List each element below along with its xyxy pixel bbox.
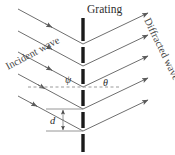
- diffraction-grating-figure: Grating Incident wave Diffracted wave ψ …: [0, 0, 175, 155]
- incident-ray: [18, 74, 83, 109]
- incident-arrowhead: [30, 103, 37, 107]
- incident-arrowhead: [45, 24, 52, 28]
- grating-spacing-label: d: [50, 115, 56, 126]
- incident-angle-label: ψ: [65, 74, 72, 85]
- diagram-canvas: Grating Incident wave Diffracted wave ψ …: [0, 0, 175, 155]
- incident-wave-label: Incident wave: [4, 34, 62, 72]
- grating-label: Grating: [87, 3, 122, 16]
- diffracted-rays-group: [83, 13, 148, 131]
- incident-arrowhead: [45, 67, 52, 71]
- diffracted-wave-label: Diffracted wave: [142, 16, 175, 82]
- diffracted-angle-label: θ: [103, 77, 108, 88]
